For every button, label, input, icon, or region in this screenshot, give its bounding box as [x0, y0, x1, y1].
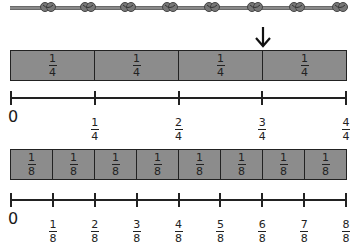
fraction-segment: 18 [305, 150, 346, 179]
numerator: 1 [28, 152, 35, 163]
fraction-segment: 18 [53, 150, 95, 179]
number-line-label: 68 [258, 213, 266, 244]
tick-mark [10, 193, 12, 207]
number-line-label: 38 [133, 213, 141, 244]
numerator: 1 [133, 53, 140, 64]
denominator: 8 [322, 166, 329, 177]
knot-icon [247, 1, 263, 13]
numerator: 1 [217, 53, 224, 64]
numerator: 1 [91, 117, 98, 128]
tick-mark [219, 193, 221, 207]
segment-fraction-label: 18 [28, 152, 36, 177]
number-line-label: 78 [300, 213, 308, 244]
tick-fraction-label: 18 [49, 219, 57, 244]
numerator: 1 [301, 53, 308, 64]
segment-fraction-label: 18 [322, 152, 330, 177]
number-line-label: 88 [342, 213, 350, 244]
denominator: 8 [259, 233, 266, 244]
numerator: 2 [175, 117, 182, 128]
tick-fraction-label: 78 [300, 219, 308, 244]
number-line-label: 0 [8, 109, 18, 125]
knot-icon [332, 1, 348, 13]
segment-fraction-label: 18 [280, 152, 288, 177]
numerator: 1 [280, 152, 287, 163]
knot-icon [80, 1, 96, 13]
tick-mark [52, 193, 54, 207]
denominator: 4 [301, 67, 308, 78]
numerator: 6 [259, 219, 266, 230]
denominator: 8 [112, 166, 119, 177]
denominator: 4 [49, 67, 56, 78]
segment-fraction-label: 18 [196, 152, 204, 177]
numerator: 5 [217, 219, 224, 230]
eighths-number-line [10, 199, 347, 201]
number-line-label: 34 [258, 111, 266, 142]
down-arrow-icon [255, 26, 271, 48]
denominator: 8 [70, 166, 77, 177]
segment-fraction-label: 14 [301, 53, 309, 78]
tick-mark [94, 193, 96, 207]
segment-fraction-label: 18 [70, 152, 78, 177]
denominator: 8 [175, 233, 182, 244]
fraction-segment: 18 [263, 150, 305, 179]
knot-icon [120, 1, 136, 13]
knot-icon [40, 1, 56, 13]
number-line-label: 28 [91, 213, 99, 244]
denominator: 4 [343, 131, 350, 142]
denominator: 4 [259, 131, 266, 142]
tick-fraction-label: 34 [258, 117, 266, 142]
denominator: 8 [196, 166, 203, 177]
denominator: 4 [175, 131, 182, 142]
numerator: 1 [70, 152, 77, 163]
tick-mark [94, 91, 96, 105]
tick-fraction-label: 58 [216, 219, 224, 244]
segment-fraction-label: 14 [133, 53, 141, 78]
numerator: 4 [175, 219, 182, 230]
numerator: 7 [301, 219, 308, 230]
numerator: 3 [259, 117, 266, 128]
denominator: 8 [301, 233, 308, 244]
numerator: 4 [343, 117, 350, 128]
quarters-fraction-bar: 14141414 [10, 50, 347, 81]
denominator: 8 [217, 233, 224, 244]
knot-icon [289, 1, 305, 13]
denominator: 4 [91, 131, 98, 142]
numerator: 2 [91, 219, 98, 230]
number-line-label: 18 [49, 213, 57, 244]
numerator: 1 [49, 53, 56, 64]
fraction-segment: 14 [263, 51, 346, 80]
fraction-segment: 18 [221, 150, 263, 179]
tick-fraction-label: 24 [175, 117, 183, 142]
fraction-segment: 18 [137, 150, 179, 179]
segment-fraction-label: 14 [49, 53, 57, 78]
denominator: 8 [49, 233, 56, 244]
number-line-label: 24 [175, 111, 183, 142]
tick-fraction-label: 68 [258, 219, 266, 244]
number-line-label: 44 [342, 111, 350, 142]
denominator: 8 [91, 233, 98, 244]
numerator: 1 [196, 152, 203, 163]
numerator: 1 [238, 152, 245, 163]
denominator: 4 [217, 67, 224, 78]
tick-mark [136, 193, 138, 207]
segment-fraction-label: 18 [238, 152, 246, 177]
fraction-segment: 14 [95, 51, 179, 80]
fraction-segment: 14 [179, 51, 263, 80]
tick-mark [178, 91, 180, 105]
denominator: 8 [133, 233, 140, 244]
tick-fraction-label: 14 [91, 117, 99, 142]
tick-fraction-label: 38 [133, 219, 141, 244]
tick-fraction-label: 44 [342, 117, 350, 142]
numerator: 1 [322, 152, 329, 163]
tick-mark [178, 193, 180, 207]
numerator: 8 [343, 219, 350, 230]
numerator: 1 [49, 219, 56, 230]
tick-mark [345, 91, 347, 105]
tick-fraction-label: 48 [175, 219, 183, 244]
denominator: 8 [343, 233, 350, 244]
quarters-number-line [10, 97, 347, 99]
fraction-segment: 14 [11, 51, 95, 80]
tick-mark [261, 91, 263, 105]
fraction-segment: 18 [179, 150, 221, 179]
number-line-label: 48 [175, 213, 183, 244]
